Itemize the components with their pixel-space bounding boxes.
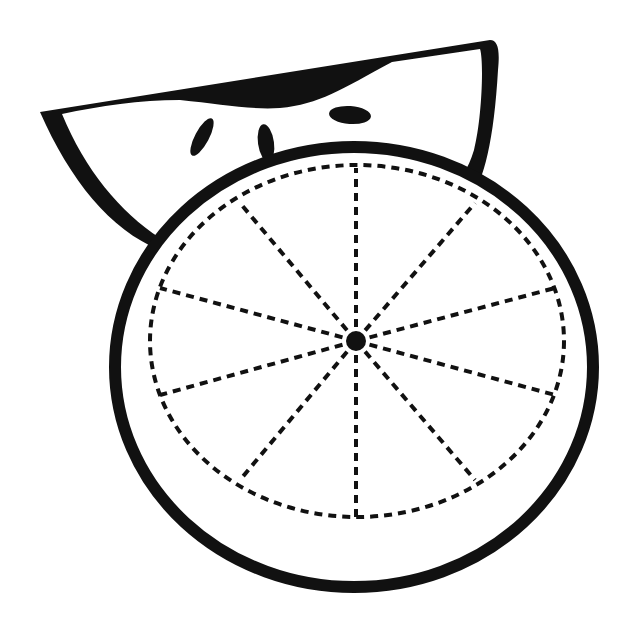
illustration-canvas: Citrus slice clip art — [0, 0, 617, 629]
slice-center-dot — [346, 331, 366, 351]
citrus-slice — [115, 147, 593, 587]
citrus-illustration — [0, 0, 617, 629]
